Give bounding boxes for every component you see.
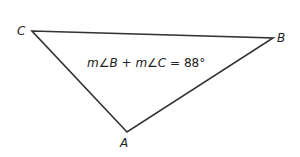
triangle-diagram: C B A m∠B + m∠C = 88°: [0, 0, 300, 157]
angle-sum-equation: m∠B + m∠C = 88°: [87, 56, 205, 70]
vertex-label-a: A: [119, 136, 128, 150]
vertex-label-c: C: [17, 24, 26, 38]
vertex-label-b: B: [277, 31, 285, 45]
triangle-abc: [32, 31, 273, 132]
